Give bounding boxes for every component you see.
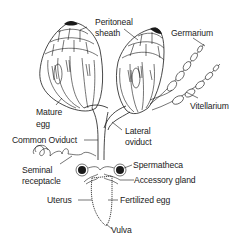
label-lateral-oviduct-line1: Lateral (125, 126, 151, 136)
left-ovary (40, 21, 103, 111)
label-mature-egg-line2: egg (36, 119, 50, 129)
accessory-gland (84, 174, 120, 184)
oviducts (84, 105, 130, 160)
label-vitellarium: Vitellarium (190, 101, 229, 111)
label-mature-egg-line1: Mature (36, 107, 62, 117)
label-fertilized-egg: Fertilized egg (120, 195, 170, 205)
seminal-receptacle (33, 145, 96, 156)
label-seminal-receptacle-line1: Seminal (22, 165, 52, 175)
label-accessory-gland: Accessory gland (134, 175, 196, 185)
label-spermatheca: Spermatheca (133, 160, 183, 170)
label-seminal-receptacle-line2: receptacle (22, 176, 61, 186)
label-germarium: Germarium (171, 28, 213, 38)
uterus (91, 176, 112, 226)
label-lateral-oviduct-line2: oviduct (125, 137, 152, 147)
label-peritoneal-sheath-line1: Peritoneal (95, 17, 133, 27)
right-ovary (116, 28, 164, 114)
spermatheca (76, 164, 126, 176)
label-uterus: Uterus (47, 195, 72, 205)
label-vulva: Vulva (111, 225, 132, 235)
label-peritoneal-sheath-line2: sheath (95, 28, 120, 38)
label-common-oviduct: Common Oviduct (12, 135, 77, 145)
reproductive-system-diagram: Peritoneal sheath Germarium Vitellarium … (0, 0, 246, 242)
